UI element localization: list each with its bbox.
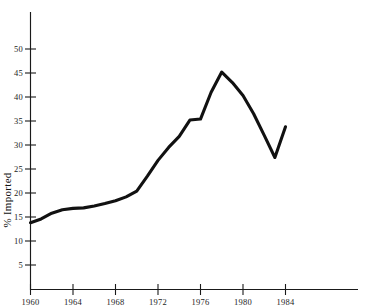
x-axis-tick-labels: 1960 1964 1968 1972 1976 1980 1984	[22, 297, 295, 307]
chart-container: 5 10 15 20 25 30 35 40 45 50 1960 1964 1…	[0, 0, 365, 307]
y-tick-label-20: 20	[14, 188, 23, 198]
line-chart: 5 10 15 20 25 30 35 40 45 50 1960 1964 1…	[0, 0, 365, 307]
x-tick-label-1972: 1972	[149, 297, 167, 307]
x-tick-label-1984: 1984	[277, 297, 295, 307]
x-tick-label-1964: 1964	[64, 297, 82, 307]
x-tick-label-1980: 1980	[234, 297, 252, 307]
x-tick-label-1968: 1968	[107, 297, 125, 307]
y-tick-label-15: 15	[14, 212, 23, 222]
y-tick-label-5: 5	[19, 260, 23, 270]
data-series-line	[31, 72, 286, 223]
y-tick-label-10: 10	[14, 236, 23, 246]
y-tick-label-40: 40	[14, 92, 23, 102]
x-tick-label-1960: 1960	[22, 297, 40, 307]
x-tick-label-1976: 1976	[192, 297, 210, 307]
y-tick-label-25: 25	[14, 164, 23, 174]
y-tick-label-30: 30	[14, 140, 23, 150]
y-tick-label-45: 45	[14, 68, 23, 78]
y-axis-label: % Imported	[1, 172, 13, 227]
y-axis-tick-labels: 5 10 15 20 25 30 35 40 45 50	[14, 44, 23, 270]
y-tick-label-35: 35	[14, 116, 23, 126]
y-tick-label-50: 50	[14, 44, 23, 54]
